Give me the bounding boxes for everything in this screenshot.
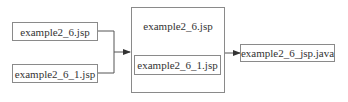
- output-box: example2_6_jsp.java: [240, 44, 335, 62]
- input-box-example2-6: example2_6.jsp: [12, 22, 98, 41]
- connector-input-2: [98, 52, 114, 73]
- input-box-label: example2_6.jsp: [20, 26, 89, 38]
- input-box-label: example2_6_1.jsp: [15, 68, 95, 80]
- container-box: example2_6.jsp: [131, 7, 225, 93]
- inner-box-label: example2_6_1.jsp: [137, 59, 217, 71]
- output-box-label: example2_6_jsp.java: [241, 47, 334, 59]
- connector-input-1: [98, 31, 114, 52]
- container-title: example2_6.jsp: [132, 20, 224, 32]
- inner-box: example2_6_1.jsp: [134, 55, 221, 75]
- input-box-example2-6-1: example2_6_1.jsp: [12, 64, 98, 83]
